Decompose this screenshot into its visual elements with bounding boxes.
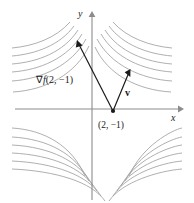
y-axis-arrowhead xyxy=(89,11,96,17)
point-label: (2, −1) xyxy=(98,121,124,131)
y-axis-label: y xyxy=(78,9,82,19)
figure-canvas: y x ∇f(2, −1) v (2, −1) xyxy=(0,0,194,203)
gradient-vector-label: ∇f(2, −1) xyxy=(36,75,73,85)
contour-curves-lower-right xyxy=(109,128,182,201)
x-axis xyxy=(15,106,184,113)
gradient-arguments: (2, −1) xyxy=(46,74,73,85)
contour-curves-upper-right xyxy=(95,22,172,92)
direction-vector-label: v xyxy=(125,88,130,98)
contour-curves-lower-left xyxy=(12,128,105,201)
point-marker xyxy=(111,109,115,113)
nabla-icon: ∇ xyxy=(36,74,43,85)
y-axis xyxy=(89,11,96,200)
x-axis-arrowhead xyxy=(178,106,184,113)
x-axis-label: x xyxy=(171,113,175,123)
gradient-vector-arrow xyxy=(76,40,113,111)
plot-svg xyxy=(0,0,194,203)
